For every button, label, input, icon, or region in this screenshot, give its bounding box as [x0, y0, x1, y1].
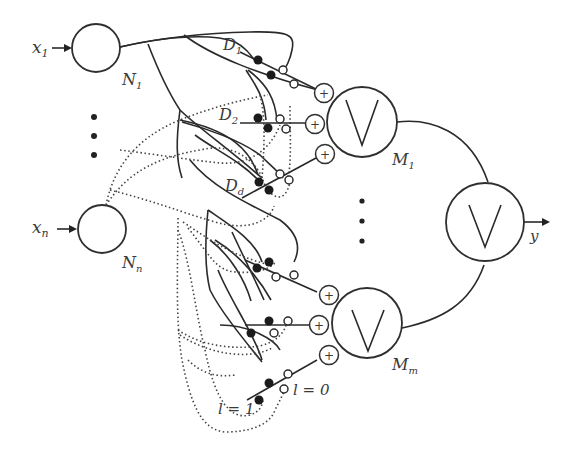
synapse-inhibitory-icon	[282, 125, 290, 133]
synapse-excitatory-icon	[265, 379, 274, 388]
neuron-nn-label: Nn	[121, 253, 142, 274]
input-x1-label: x1	[32, 37, 49, 60]
synapse-excitatory-icon	[265, 258, 274, 267]
arrow-head-icon	[542, 218, 550, 226]
dendrite-d1-label: D1	[222, 35, 242, 56]
svg-text:+: +	[314, 319, 324, 333]
dendrite-lower-1	[245, 258, 317, 293]
svg-text:+: +	[320, 148, 330, 162]
synapse-excitatory-icon	[255, 396, 264, 405]
output-y-label: y	[529, 227, 539, 245]
synapse-excitatory-icon	[267, 71, 276, 80]
n1-axon-wires	[120, 32, 318, 362]
synapse-excitatory-icon	[265, 317, 274, 326]
synapse-excitatory-icon	[253, 264, 262, 273]
svg-text:+: +	[319, 87, 329, 101]
dendrite-d2-label: D2	[218, 105, 238, 126]
synapse-excitatory-icon	[265, 186, 274, 195]
dendrite-dd-label: Dd	[224, 176, 244, 197]
svg-text:+: +	[324, 289, 334, 303]
dendrite-d2	[240, 114, 306, 134]
svg-text:+: +	[324, 349, 334, 363]
output-or-unit	[446, 183, 524, 261]
synapse-inhibitory-icon	[272, 273, 280, 281]
neuron-nn	[78, 205, 126, 253]
synapse-inhibitory-icon	[279, 66, 287, 74]
synapse-excitatory-icon	[264, 124, 273, 133]
module-ellipsis	[359, 198, 364, 243]
legend-l1-label: l = 1	[218, 400, 254, 418]
input-xn: xn	[32, 217, 77, 240]
input-x1: x1	[32, 37, 72, 60]
arrow-head-icon	[69, 225, 77, 233]
arrow-head-icon	[64, 44, 72, 52]
synapse-inhibitory-icon	[280, 385, 288, 393]
synapse-excitatory-icon	[247, 329, 256, 338]
synapse-inhibitory-icon	[276, 115, 284, 123]
synapse-inhibitory-icon	[270, 329, 278, 337]
neuron-n1-label: N1	[121, 70, 142, 91]
synapse-excitatory-icon	[254, 56, 263, 65]
network-diagram: x1 N1 xn Nn	[0, 0, 572, 456]
neuron-n1	[72, 24, 120, 72]
synapse-excitatory-icon	[254, 114, 263, 123]
synapse-inhibitory-icon	[290, 271, 298, 279]
synapse-inhibitory-icon	[290, 80, 298, 88]
synapse-inhibitory-icon	[285, 176, 293, 184]
mm-to-output-wire	[402, 265, 484, 328]
synapse-inhibitory-icon	[276, 170, 284, 178]
synapse-inhibitory-icon	[284, 317, 292, 325]
m1-to-output-wire	[397, 121, 488, 182]
input-xn-label: xn	[32, 217, 49, 240]
synapse-excitatory-icon	[255, 178, 264, 187]
legend-l0-label: l = 0	[293, 381, 330, 399]
dendrite-lower-2	[245, 317, 309, 338]
dendrite-d1	[240, 52, 318, 90]
input-ellipsis	[91, 114, 97, 158]
synapse-inhibitory-icon	[284, 370, 292, 378]
or-unit-mm-label: Mm	[391, 355, 418, 376]
svg-text:+: +	[310, 118, 320, 132]
or-unit-m1-label: M1	[391, 150, 415, 171]
